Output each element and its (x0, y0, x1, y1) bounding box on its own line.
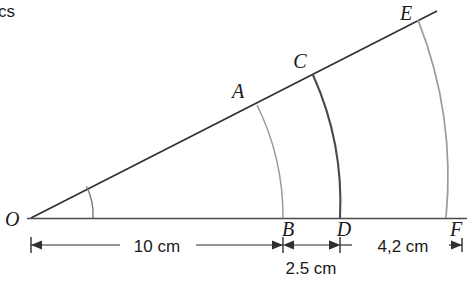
dim-arrow-left-4-2cm (329, 241, 340, 250)
dimension-label-10cm: 10 cm (134, 237, 180, 256)
diagram-page: cs O A C E B D F 10 cm (0, 0, 472, 282)
point-label-D: D (336, 218, 352, 240)
point-label-F: F (449, 218, 463, 240)
dim-arrow-right-10cm (272, 241, 283, 250)
dim-arrow-left-10cm (31, 241, 42, 250)
dimension-label-4-2cm: 4,2 cm (377, 237, 428, 256)
point-label-B: B (282, 218, 294, 240)
point-label-A: A (230, 80, 245, 102)
upper-ray (31, 11, 437, 218)
arc-A-B (257, 105, 283, 218)
dim-arrow-right-4-2cm (451, 241, 462, 250)
dimension-10cm: 10 cm (31, 237, 283, 256)
point-label-E: E (399, 2, 412, 24)
dim-arrow-left-2-5cm (283, 241, 294, 250)
dimension-label-2-5cm: 2.5 cm (285, 259, 336, 278)
angle-arc-marker (87, 187, 94, 219)
arc-C-D (313, 75, 340, 218)
arc-E-F (418, 20, 448, 218)
geometry-figure: O A C E B D F 10 cm 2.5 cm (0, 0, 472, 282)
point-label-O: O (5, 208, 19, 230)
point-label-C: C (293, 50, 307, 72)
